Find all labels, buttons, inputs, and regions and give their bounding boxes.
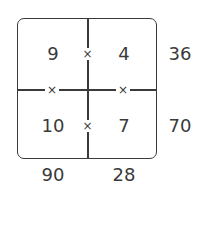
col-product-1: 28 [104,165,144,185]
cell-r0-c1: 4 [104,44,144,64]
cell-r0-c0: 9 [33,44,73,64]
multiply-sign-row-0: × [81,48,95,60]
multiply-sign-col-0: × [45,84,59,96]
col-product-0: 90 [33,165,73,185]
row-product-1: 70 [160,116,200,136]
horizontal-divider [17,89,157,91]
cell-r1-c1: 7 [104,116,144,136]
row-product-0: 36 [160,44,200,64]
cell-r1-c0: 10 [33,116,73,136]
multiply-sign-row-1: × [81,120,95,132]
multiply-sign-col-1: × [116,84,130,96]
